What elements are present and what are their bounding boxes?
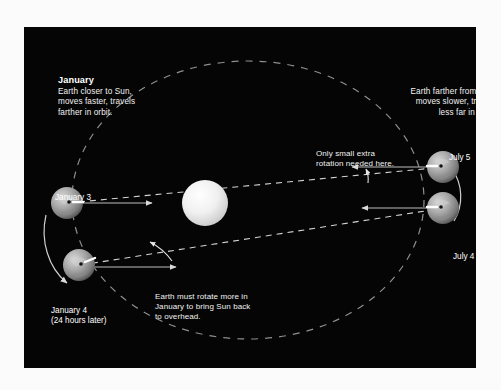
earth-july-4	[427, 192, 459, 224]
label-january-4: January 4 (24 hours later)	[51, 306, 107, 326]
caption-july-heading: July	[344, 75, 476, 87]
label-january-3: January 3	[55, 193, 91, 203]
annotation-july-rotation: Only small extra rotation needed here.	[316, 149, 438, 169]
caption-july-body: Earth farther from Sun, moves slower, tr…	[410, 87, 476, 117]
annotation-january-rotation: Earth must rotate more in January to bri…	[155, 292, 301, 323]
label-july-4: July 4	[453, 252, 474, 262]
sun-body	[182, 180, 228, 226]
arc-july-extra-rotation	[366, 169, 368, 183]
label-july-5: July 5	[449, 153, 470, 163]
astronomy-diagram-panel: JanuaryEarth closer to Sun, moves faster…	[24, 27, 476, 368]
motion-arrow-january	[44, 215, 67, 283]
caption-july: JulyEarth farther from Sun, moves slower…	[344, 65, 476, 118]
caption-january-body: Earth closer to Sun, moves faster, trave…	[58, 87, 135, 117]
figure-page: JanuaryEarth closer to Sun, moves faster…	[0, 0, 501, 390]
caption-january: JanuaryEarth closer to Sun, moves faster…	[58, 65, 208, 118]
sightline-january3-july5	[68, 167, 444, 203]
caption-january-heading: January	[58, 75, 208, 87]
earth-january-4	[63, 249, 95, 281]
sightline-january4-july4	[81, 208, 444, 265]
